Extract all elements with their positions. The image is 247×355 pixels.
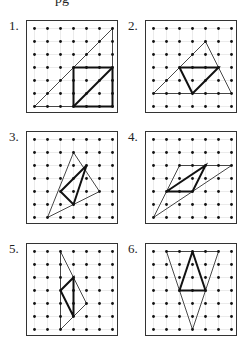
bold-figure [61, 278, 74, 317]
geoboard-panel-2 [145, 20, 237, 113]
geoboard-panel-3 [26, 131, 118, 224]
dot-grid-figure [146, 132, 235, 222]
problem-number-label: 1. [9, 18, 19, 34]
problem-number-label: 2. [128, 18, 138, 34]
geoboard-panel-6 [145, 243, 237, 336]
dot-grid-figure [27, 132, 116, 222]
page-header-fragment: pg [55, 0, 69, 7]
problem-number-label: 3. [9, 129, 19, 145]
dot-grid-figure [27, 21, 116, 111]
problem-number-label: 4. [128, 129, 138, 145]
dot-grid-figure [146, 21, 235, 111]
geoboard-panel-4 [145, 131, 237, 224]
geoboard-panel-5 [26, 243, 118, 336]
geoboard-panel-1 [26, 20, 118, 113]
bold-figure [74, 68, 113, 107]
problem-number-label: 5. [9, 241, 19, 257]
dot-grid-figure [27, 244, 116, 334]
dot-grid-figure [146, 244, 235, 334]
problem-number-label: 6. [128, 241, 138, 257]
